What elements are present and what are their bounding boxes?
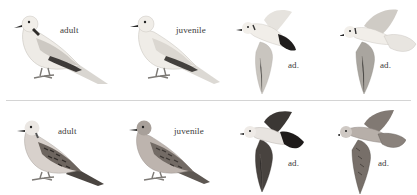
bird-illustration-flight-dorsal (236, 6, 308, 94)
illustration-row-pale-dove: adult juvenile (0, 0, 417, 100)
figure-label: ad. (288, 60, 299, 70)
figure-label: adult (60, 25, 79, 35)
bird-illustration-juvenile-perched (128, 8, 220, 84)
figure-label: adult (58, 126, 77, 136)
figure-label: ad. (378, 158, 389, 168)
row-divider (6, 100, 411, 101)
bird-illustration-flight-dorsal (240, 108, 304, 192)
figure-label: juvenile (174, 126, 204, 136)
illustration-row-scaly-dove: adult juvenile ad. (0, 102, 417, 195)
bird-illustration-flight-ventral (340, 6, 417, 94)
bird-illustration-flight-ventral (338, 108, 406, 194)
bird-illustration-adult-perched (10, 8, 110, 84)
figure-label: ad. (380, 60, 391, 70)
figure-label: juvenile (176, 25, 206, 35)
figure-label: ad. (288, 158, 299, 168)
